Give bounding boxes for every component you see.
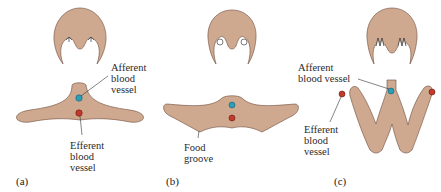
gill-filament-c [330, 79, 435, 153]
efferent-vessel-c-right [429, 89, 435, 95]
efferent-vessel-b [229, 115, 235, 121]
label-efferent-a: Efferent blood vessel [70, 140, 104, 173]
gill-filament-b [164, 96, 299, 138]
label-afferent-a: Afferent blood vessel [111, 62, 146, 95]
gill-diagram [0, 0, 441, 192]
afferent-vessel-b [229, 102, 235, 108]
efferent-vessel-c-left [339, 91, 345, 97]
gill-arch-b [208, 10, 256, 64]
label-food-groove: Food groove [184, 142, 213, 164]
label-efferent-c: Efferent blood vessel [304, 124, 338, 157]
panel-label-c: (c) [334, 175, 346, 187]
label-afferent-c: Afferent blood vessel [298, 62, 350, 84]
gill-arch-a [54, 8, 106, 64]
panel-label-b: (b) [166, 175, 179, 187]
gill-arch-c [367, 8, 417, 64]
panel-label-a: (a) [16, 175, 28, 187]
efferent-vessel-a [76, 110, 82, 116]
